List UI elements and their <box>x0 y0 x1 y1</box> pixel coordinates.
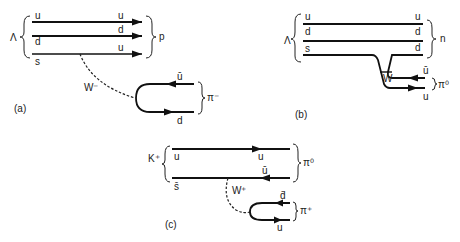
arrow-icon <box>132 51 142 58</box>
antiquark-u-bar: ū <box>423 65 429 76</box>
panel-c: K⁺ u s̄ u ū π⁰ W⁺ d̄ u π⁺ (c) <box>148 144 314 233</box>
quark-out-u: u <box>415 11 421 22</box>
arrow-icon <box>408 85 418 92</box>
feynman-diagrams: Λ u d s u d u p W⁻ ū d π⁻ (a) Λ <box>0 0 460 242</box>
quark-out-u: u <box>118 10 124 21</box>
left-brace <box>20 16 30 58</box>
quark-in-u: u <box>174 151 180 162</box>
quark-in-u: u <box>35 10 41 21</box>
antiquark-out-u-bar: ū <box>262 165 268 176</box>
antiquark-u-bar: ū <box>177 71 183 82</box>
quark-u: u <box>277 222 283 233</box>
caption-b: (b) <box>295 109 307 120</box>
quark-d: d <box>177 115 183 126</box>
right-brace <box>427 20 436 58</box>
pion-plus-label: π⁺ <box>300 205 312 216</box>
neutron-label: n <box>440 33 446 44</box>
pion-brace <box>198 82 205 114</box>
pion-minus-label: π⁻ <box>207 92 219 103</box>
quark-line-s-to-u <box>303 55 425 88</box>
quark-out-d2: d <box>415 42 421 53</box>
quark-out-u2: u <box>118 42 124 53</box>
quark-u: u <box>423 91 429 102</box>
quark-out-u: u <box>258 151 264 162</box>
panel-b: Λ W u d s u d d n ū u π⁰ (b) <box>284 11 449 120</box>
antiquark-s-bar: s̄ <box>174 181 179 192</box>
proton-label: p <box>159 31 165 42</box>
quark-in-d: d <box>305 26 311 37</box>
quark-in-u: u <box>305 11 311 22</box>
arrow-icon <box>132 33 142 40</box>
quark-in-s: s <box>35 56 40 67</box>
left-brace <box>162 146 170 182</box>
panel-a: Λ u d s u d u p W⁻ ū d π⁻ (a) <box>10 10 219 126</box>
quark-in-s: s <box>305 43 310 54</box>
quark-in-d: d <box>35 36 41 47</box>
arrow-icon <box>166 81 176 88</box>
quark-out-d: d <box>415 26 421 37</box>
arrow-icon <box>132 19 142 26</box>
right-brace <box>293 144 301 182</box>
caption-a: (a) <box>14 103 26 114</box>
quark-pair-fork <box>136 84 194 112</box>
lambda-label: Λ <box>284 35 291 46</box>
arrow-icon <box>164 109 174 116</box>
left-brace <box>291 14 301 62</box>
right-brace <box>146 16 156 58</box>
pion-brace <box>293 202 298 221</box>
quark-out-d: d <box>118 24 124 35</box>
pion-zero-label: π⁰ <box>438 79 449 90</box>
w-plus-label: W⁺ <box>232 185 246 196</box>
antiquark-d-bar: d̄ <box>280 190 286 201</box>
lambda-label: Λ <box>10 32 17 43</box>
caption-c: (c) <box>165 219 177 230</box>
arrow-icon <box>408 75 418 82</box>
pion-brace <box>432 78 437 90</box>
kaon-label: K⁺ <box>148 153 160 164</box>
quark-pair-fork <box>250 203 290 220</box>
quark-line-d-out <box>388 55 425 78</box>
w-label: W <box>383 73 393 84</box>
pion-zero-label: π⁰ <box>303 157 314 168</box>
w-minus-label: W⁻ <box>84 82 98 93</box>
